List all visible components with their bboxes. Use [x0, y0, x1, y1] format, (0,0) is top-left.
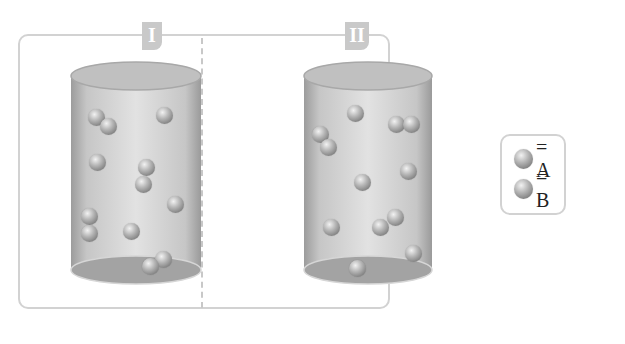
particle — [123, 223, 140, 240]
particle — [349, 260, 366, 277]
particle — [400, 163, 417, 180]
particle — [135, 176, 152, 193]
sphere-a-icon — [514, 149, 533, 169]
sphere-b-icon — [514, 179, 533, 199]
particle — [100, 118, 117, 135]
legend: = A = B — [500, 134, 566, 215]
particle — [387, 209, 404, 226]
particle — [323, 219, 340, 236]
particle — [354, 174, 371, 191]
legend-label-b: = B — [536, 166, 564, 212]
legend-item-b: = B — [514, 178, 564, 200]
particle — [405, 245, 422, 262]
tab-container-1: I — [142, 22, 162, 50]
particle — [347, 105, 364, 122]
particle — [156, 107, 173, 124]
tab-container-2: II — [345, 22, 369, 50]
particle — [81, 225, 98, 242]
particle — [320, 139, 337, 156]
cylinder-container-1 — [70, 60, 202, 290]
particle — [167, 196, 184, 213]
particle — [403, 116, 420, 133]
particle — [372, 219, 389, 236]
particle — [138, 159, 155, 176]
particle — [81, 208, 98, 225]
particle — [89, 154, 106, 171]
particle — [142, 258, 159, 275]
